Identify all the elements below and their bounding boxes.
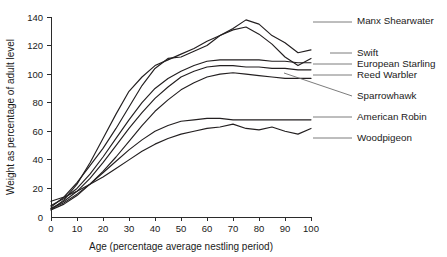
x-tick-label: 60 (202, 223, 213, 234)
x-tick-label: 100 (303, 223, 319, 234)
y-tick-label: 80 (32, 97, 43, 108)
series-label-american-robin: American Robin (357, 111, 427, 122)
series-label-woodpigeon: Woodpigeon (357, 132, 412, 143)
x-tick-label: 0 (48, 223, 53, 234)
y-tick-label: 20 (32, 183, 43, 194)
y-tick-label: 60 (32, 126, 43, 137)
y-tick-label: 120 (27, 40, 43, 51)
x-tick-label: 20 (98, 223, 109, 234)
chart-figure: 0102030405060708090100020406080100120140… (0, 0, 447, 257)
x-tick-label: 10 (72, 223, 83, 234)
series-label-european-starling: European Starling (357, 58, 435, 69)
y-tick-label: 100 (27, 69, 43, 80)
x-tick-label: 50 (176, 223, 187, 234)
x-tick-label: 80 (254, 223, 265, 234)
y-tick-label: 40 (32, 154, 43, 165)
chart-background (0, 0, 447, 257)
x-axis-title: Age (percentage average nestling period) (89, 241, 273, 252)
y-tick-label: 0 (38, 212, 43, 223)
x-tick-label: 90 (280, 223, 291, 234)
y-axis-title: Weight as percentage of adult level (5, 39, 16, 195)
series-label-reed-warbler: Reed Warbler (357, 69, 418, 80)
series-label-swift: Swift (357, 47, 379, 58)
x-tick-label: 70 (228, 223, 239, 234)
series-label-manx-shearwater: Manx Shearwater (357, 15, 435, 26)
x-tick-label: 40 (150, 223, 161, 234)
series-label-sparrowhawk: Sparrowhawk (357, 90, 416, 101)
y-tick-label: 140 (27, 12, 43, 23)
x-tick-label: 30 (124, 223, 135, 234)
growth-curves-chart: 0102030405060708090100020406080100120140… (0, 0, 447, 257)
